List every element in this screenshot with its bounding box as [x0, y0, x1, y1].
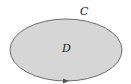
region-diagram: C D	[0, 0, 131, 84]
curve-label-c: C	[80, 5, 89, 18]
region-label-d: D	[61, 42, 71, 55]
